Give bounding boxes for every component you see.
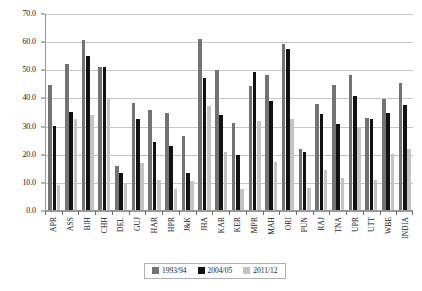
x-tick-mark	[162, 211, 163, 215]
x-tick-label: RAJ	[317, 217, 326, 231]
bar	[207, 106, 211, 210]
bar-group	[196, 14, 213, 210]
bar	[382, 99, 386, 210]
legend-swatch	[243, 267, 250, 274]
x-tick-mark	[412, 211, 413, 215]
bar	[315, 104, 319, 210]
bar	[186, 173, 190, 210]
x-tick-label: MAH	[266, 217, 275, 235]
y-tick-label: 0.0	[26, 207, 36, 215]
bar	[249, 86, 253, 210]
bar	[90, 115, 94, 210]
x-tick-label: KER	[233, 217, 242, 232]
bar	[219, 115, 223, 210]
bar	[320, 114, 324, 210]
x-axis-slot: HPR	[162, 211, 179, 259]
x-tick-mark	[279, 211, 280, 215]
x-tick-label: TNA	[333, 217, 342, 233]
bar-group	[296, 14, 313, 210]
x-axis-slot: UPR	[346, 211, 363, 259]
bar	[65, 64, 69, 210]
bar	[57, 185, 61, 210]
bar-group	[330, 14, 347, 210]
x-tick-label: CHH	[99, 217, 108, 233]
bar	[86, 56, 90, 210]
bar	[232, 123, 236, 210]
bar	[182, 136, 186, 210]
x-axis-slot: DEL	[112, 211, 129, 259]
bar	[107, 98, 111, 210]
bar	[165, 113, 169, 210]
bar-group	[113, 14, 130, 210]
x-axis-slot: ORI	[279, 211, 296, 259]
x-axis-slot: UTT	[363, 211, 380, 259]
bar	[119, 173, 123, 210]
bar	[215, 70, 219, 210]
bar	[253, 72, 257, 210]
x-tick-label: ORI	[283, 217, 292, 230]
y-tick-label: 30.0	[22, 123, 36, 131]
bar-chart: 0.010.020.030.040.050.060.070.0 APRASSBI…	[0, 0, 422, 291]
x-tick-mark	[62, 211, 63, 215]
x-axis-slot: TNA	[329, 211, 346, 259]
bar	[115, 166, 119, 210]
x-tick-mark	[95, 211, 96, 215]
bar-group	[380, 14, 397, 210]
bar	[98, 67, 102, 210]
legend-item[interactable]: 1993/94	[152, 267, 187, 275]
x-axis-slot: J&K	[179, 211, 196, 259]
x-tick-mark	[380, 211, 381, 215]
bar-group	[280, 14, 297, 210]
x-tick-mark	[196, 211, 197, 215]
bar	[174, 189, 178, 210]
bar	[357, 128, 361, 210]
x-axis-slot: WBE	[380, 211, 397, 259]
x-tick-label: UPR	[350, 217, 359, 232]
legend-item[interactable]: 2004/05	[198, 267, 233, 275]
x-tick-label: KAR	[216, 217, 225, 233]
bar-group	[396, 14, 413, 210]
x-tick-mark	[396, 211, 397, 215]
x-tick-mark	[112, 211, 113, 215]
y-tick-label: 20.0	[22, 151, 36, 159]
bar	[240, 189, 244, 210]
bar	[190, 181, 194, 210]
bar	[132, 103, 136, 210]
legend-item[interactable]: 2011/12	[243, 267, 277, 275]
bar	[282, 44, 286, 210]
plot-area	[45, 14, 413, 211]
x-axis-slot: INDIA	[396, 211, 413, 259]
bar	[198, 39, 202, 210]
x-tick-label: HPR	[166, 217, 175, 232]
bar	[341, 178, 345, 210]
bar	[332, 85, 336, 210]
x-axis-slot: JHA	[196, 211, 213, 259]
bar	[257, 121, 261, 210]
bar-group	[246, 14, 263, 210]
bar	[365, 118, 369, 210]
x-axis-slot: RAJ	[313, 211, 330, 259]
y-axis: 0.010.020.030.040.050.060.070.0	[0, 0, 45, 211]
x-axis-slot: MAH	[263, 211, 280, 259]
x-tick-mark	[346, 211, 347, 215]
bar	[148, 110, 152, 210]
bar	[203, 78, 207, 210]
x-axis: APRASSBIHCHHDELGUJHARHPRJ&KJHAKARKERMPRM…	[45, 211, 413, 259]
bar-group	[363, 14, 380, 210]
bar	[403, 105, 407, 210]
bar	[169, 146, 173, 210]
bar	[386, 113, 390, 210]
x-axis-slot: KER	[229, 211, 246, 259]
x-axis-slot: CHH	[95, 211, 112, 259]
x-tick-mark	[246, 211, 247, 215]
bar	[391, 154, 395, 210]
x-tick-label: UTT	[367, 217, 376, 232]
x-tick-mark	[329, 211, 330, 215]
x-tick-mark	[78, 211, 79, 215]
x-tick-label: MPR	[250, 217, 259, 233]
x-axis-slot: PUN	[296, 211, 313, 259]
legend-label: 2011/12	[253, 267, 277, 275]
x-tick-label: HAR	[149, 217, 158, 233]
bar-group	[263, 14, 280, 210]
bar-group	[213, 14, 230, 210]
